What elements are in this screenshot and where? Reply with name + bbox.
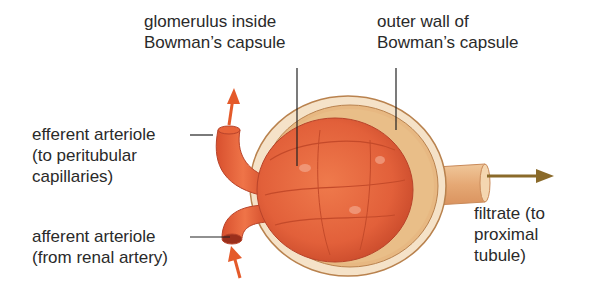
efferent-flow-arrow [227, 88, 240, 125]
label-afferent-arteriole: afferent arteriole (from renal artery) [32, 226, 168, 268]
label-glomerulus: glomerulus inside Bowman’s capsule [144, 11, 285, 53]
label-outer-wall: outer wall of Bowman’s capsule [377, 11, 518, 53]
filtrate-flow-arrow [487, 169, 554, 183]
label-efferent-arteriole: efferent arteriole (to peritubular capil… [32, 124, 155, 187]
glomerulus [257, 118, 413, 262]
afferent-flow-arrow [228, 246, 242, 278]
label-filtrate: filtrate (to proximal tubule) [474, 203, 545, 266]
